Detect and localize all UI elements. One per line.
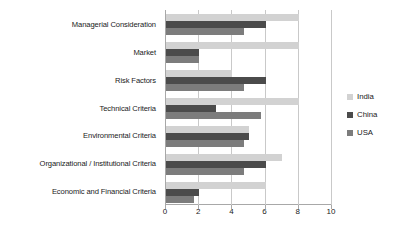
bar-china: [166, 105, 216, 112]
legend-swatch-icon: [347, 94, 353, 100]
bar-group: [166, 98, 331, 119]
bar-group: [166, 126, 331, 147]
bar-china: [166, 21, 266, 28]
bar-china: [166, 189, 199, 196]
category-label: Economic and Financial Criteria: [0, 187, 156, 197]
bar-india: [166, 14, 299, 21]
bar-group: [166, 70, 331, 91]
legend-item: USA: [347, 128, 399, 137]
bar-india: [166, 126, 249, 133]
bar-india: [166, 42, 299, 49]
legend-swatch-icon: [347, 130, 353, 136]
value-axis-tick-label: 6: [262, 207, 266, 216]
bar-india: [166, 154, 282, 161]
bar-usa: [166, 28, 244, 35]
bar-group: [166, 14, 331, 35]
category-label: Technical Criteria: [0, 104, 156, 114]
value-axis-tick-label: 4: [229, 207, 233, 216]
value-axis-tick-label: 8: [296, 207, 300, 216]
bar-china: [166, 77, 266, 84]
legend-item: China: [347, 110, 399, 119]
bar-usa: [166, 140, 244, 147]
legend-label: China: [357, 110, 377, 119]
category-axis-line: [165, 204, 331, 205]
plot-area: [165, 10, 331, 205]
value-axis-tick-label: 0: [163, 207, 167, 216]
chart-legend: IndiaChinaUSA: [347, 92, 399, 146]
bar-group: [166, 42, 331, 63]
bar-group: [166, 182, 331, 203]
legend-label: India: [357, 92, 374, 101]
value-axis-tick-label: 2: [196, 207, 200, 216]
gridline: [331, 10, 332, 205]
bar-usa: [166, 168, 244, 175]
bar-china: [166, 133, 249, 140]
bar-usa: [166, 84, 244, 91]
bar-usa: [166, 112, 261, 119]
bar-china: [166, 161, 266, 168]
legend-item: India: [347, 92, 399, 101]
category-label: Managerial Consideration: [0, 20, 156, 30]
value-axis-labels: 0246810: [165, 207, 331, 223]
legend-label: USA: [357, 128, 373, 137]
bar-india: [166, 70, 232, 77]
category-axis-labels: Managerial ConsiderationMarketRisk Facto…: [0, 10, 160, 205]
bar-india: [166, 182, 266, 189]
bar-group: [166, 154, 331, 175]
category-label: Organizational / Institutional Criteria: [0, 159, 156, 169]
bar-china: [166, 49, 199, 56]
bar-usa: [166, 196, 194, 203]
legend-swatch-icon: [347, 112, 353, 118]
bar-india: [166, 98, 299, 105]
category-label: Environmental Criteria: [0, 131, 156, 141]
bar-chart: Managerial ConsiderationMarketRisk Facto…: [0, 0, 403, 240]
category-label: Market: [0, 48, 156, 58]
value-axis-tick-label: 10: [327, 207, 336, 216]
category-label: Risk Factors: [0, 76, 156, 86]
bar-usa: [166, 56, 199, 63]
